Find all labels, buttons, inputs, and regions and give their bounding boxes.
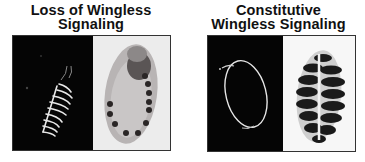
- striped-embryo-image: [13, 36, 93, 150]
- caption-line-2: Signaling: [0, 17, 182, 31]
- brightfield-panel: [93, 36, 170, 150]
- caption-line-1: Constitutive: [192, 3, 365, 17]
- outlined-embryo-image: [208, 36, 283, 151]
- fluorescence-panel: [13, 36, 93, 150]
- spotted-embryo-image: [93, 36, 170, 150]
- caption-line-2: Wingless Signaling: [192, 17, 365, 31]
- caption-line-1: Loss of Wingless: [0, 3, 182, 17]
- brightfield-panel: [283, 36, 355, 151]
- banded-embryo-image: [283, 36, 355, 151]
- panel-pair: [12, 35, 171, 151]
- figure-caption: Constitutive Wingless Signaling: [192, 3, 365, 31]
- panel-pair: [207, 35, 356, 152]
- figure-caption: Loss of Wingless Signaling: [0, 3, 182, 31]
- fluorescence-panel: [208, 36, 283, 151]
